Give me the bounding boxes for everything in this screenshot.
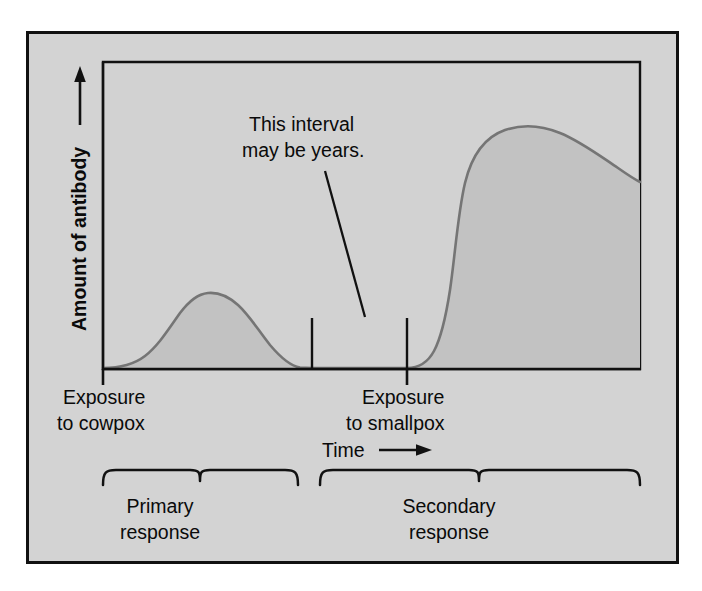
event-label-smallpox-line2: to smallpox <box>346 412 445 434</box>
plot-area <box>102 62 641 370</box>
interval-annotation-line1: This interval <box>249 113 354 135</box>
y-axis-label: Amount of antibody <box>68 147 90 331</box>
event-label-cowpox-line1: Exposure <box>63 386 145 408</box>
x-axis-label: Time <box>322 439 365 461</box>
event-label-cowpox-line2: to cowpox <box>57 412 145 434</box>
phase-label-primary-line1: Primary <box>126 495 193 517</box>
phase-label-secondary-line2: response <box>409 521 489 543</box>
interval-annotation-line2: may be years. <box>242 139 364 161</box>
phase-label-secondary-line1: Secondary <box>402 495 495 517</box>
figure-container: Amount of antibody This interval may be … <box>0 0 702 591</box>
event-label-smallpox-line1: Exposure <box>362 386 444 408</box>
phase-label-primary-line2: response <box>120 521 200 543</box>
antibody-response-figure: Amount of antibody This interval may be … <box>0 0 702 591</box>
